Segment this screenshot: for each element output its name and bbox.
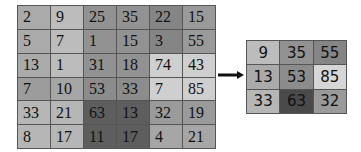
- matrix-cell: 25: [84, 6, 116, 29]
- matrix-cell: 1: [51, 54, 83, 77]
- matrix-cell: 13: [18, 54, 50, 77]
- matrix-cell: 85: [183, 78, 215, 101]
- matrix-cell: 33: [117, 78, 149, 101]
- matrix-cell: 7: [51, 30, 83, 53]
- matrix-cell: 8: [18, 125, 50, 148]
- matrix-cell: 5: [18, 30, 50, 53]
- matrix-cell: 13: [117, 101, 149, 124]
- matrix-cell: 43: [183, 54, 215, 77]
- matrix-cell: 22: [150, 6, 182, 29]
- matrix-cell: 32: [150, 101, 182, 124]
- input-matrix: 2925352215571153551313118744371053337853…: [17, 5, 216, 149]
- matrix-cell: 9: [51, 6, 83, 29]
- matrix-cell: 4: [150, 125, 182, 148]
- matrix-cell: 11: [84, 125, 116, 148]
- matrix-cell: 18: [117, 54, 149, 77]
- matrix-cell: 21: [183, 125, 215, 148]
- output-matrix: 93555135385336332: [246, 40, 347, 114]
- matrix-cell: 1: [84, 30, 116, 53]
- matrix-cell: 63: [84, 101, 116, 124]
- matrix-cell: 63: [280, 90, 312, 113]
- matrix-cell: 55: [314, 41, 346, 64]
- matrix-cell: 13: [247, 65, 279, 88]
- matrix-cell: 53: [280, 65, 312, 88]
- matrix-cell: 3: [150, 30, 182, 53]
- matrix-cell: 53: [84, 78, 116, 101]
- matrix-cell: 2: [18, 6, 50, 29]
- matrix-cell: 17: [117, 125, 149, 148]
- matrix-cell: 33: [18, 101, 50, 124]
- matrix-cell: 7: [150, 78, 182, 101]
- arrow-right-icon: [218, 71, 244, 79]
- matrix-cell: 21: [51, 101, 83, 124]
- matrix-cell: 7: [18, 78, 50, 101]
- matrix-cell: 74: [150, 54, 182, 77]
- matrix-cell: 17: [51, 125, 83, 148]
- matrix-cell: 10: [51, 78, 83, 101]
- matrix-cell: 33: [247, 90, 279, 113]
- matrix-cell: 85: [314, 65, 346, 88]
- matrix-cell: 9: [247, 41, 279, 64]
- matrix-cell: 55: [183, 30, 215, 53]
- matrix-cell: 31: [84, 54, 116, 77]
- matrix-cell: 35: [280, 41, 312, 64]
- matrix-cell: 15: [117, 30, 149, 53]
- matrix-cell: 19: [183, 101, 215, 124]
- matrix-cell: 35: [117, 6, 149, 29]
- matrix-cell: 15: [183, 6, 215, 29]
- matrix-cell: 32: [314, 90, 346, 113]
